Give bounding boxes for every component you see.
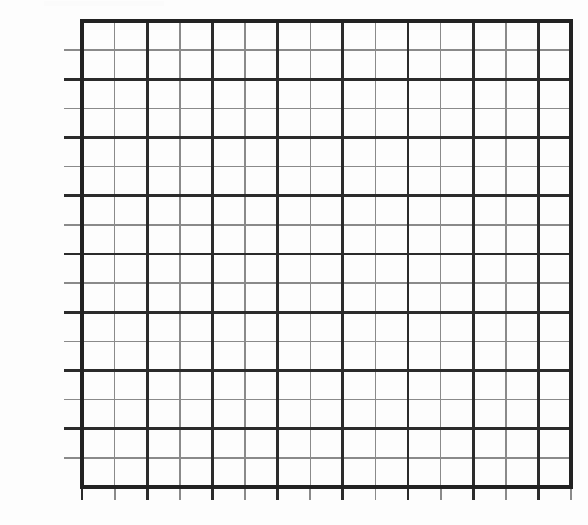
grid-plot-area (0, 0, 588, 525)
major-horizontal-gridlines (82, 21, 571, 487)
graph-paper-screen: 120°110°100°90°80°70°60°50°40°30°20°10°0… (0, 0, 588, 525)
y-axis-tick-marks (64, 50, 82, 458)
x-axis-tick-marks (82, 487, 571, 500)
y-axis-labels: 120°110°100°90°80°70°60°50°40°30°20°10°0… (0, 0, 60, 525)
